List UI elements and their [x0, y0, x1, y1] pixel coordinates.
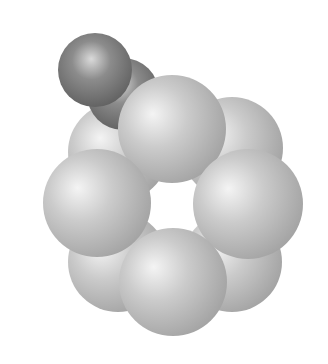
atom-sphere-ring-front-left: [43, 149, 151, 257]
atom-sphere-substituent-outer: [58, 33, 132, 107]
molecular-model: [0, 0, 328, 364]
atom-sphere-ring-front-bottom: [119, 228, 227, 336]
